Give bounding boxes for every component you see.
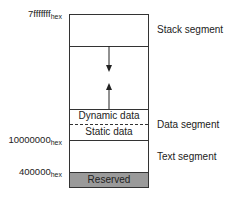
reserved-region: Reserved: [69, 172, 149, 188]
dynamic-data-label: Dynamic data: [69, 110, 149, 121]
address-text-start: 400000hex: [19, 166, 62, 178]
static-data-region: Static data: [69, 125, 149, 140]
data-text-boundary: [69, 140, 149, 141]
reserved-label: Reserved: [70, 174, 148, 185]
data-segment-label: Data segment: [157, 119, 219, 130]
static-data-label: Static data: [69, 126, 149, 137]
address-top: 7fffffffhex: [28, 8, 62, 20]
text-segment-label: Text segment: [157, 151, 216, 162]
stack-segment-label: Stack segment: [157, 24, 223, 35]
address-data-start: 10000000hex: [8, 134, 62, 146]
growth-arrows-icon: [100, 46, 120, 110]
dynamic-data-region: Dynamic data: [69, 110, 149, 124]
